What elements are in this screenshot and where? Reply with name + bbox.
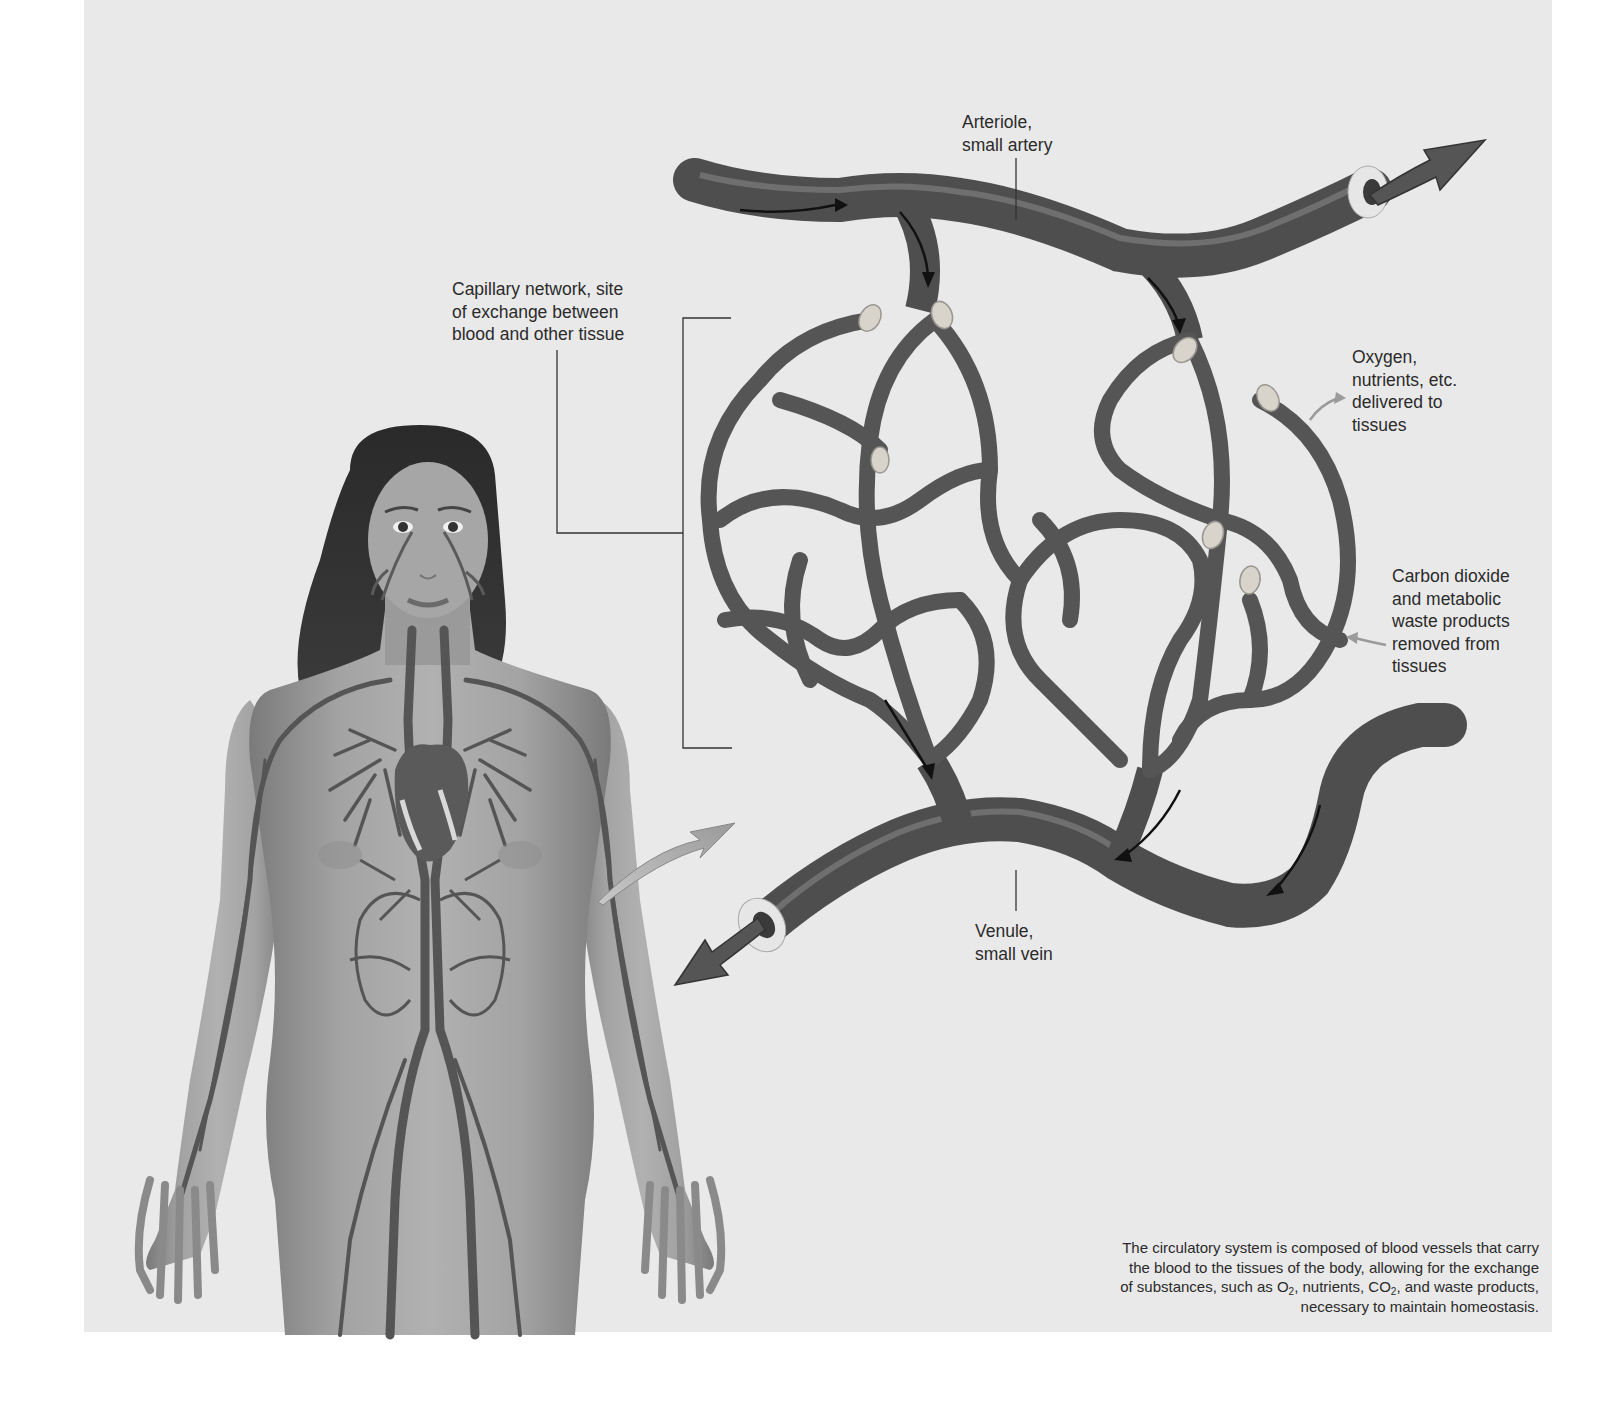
circulatory-illustration <box>0 0 1601 1413</box>
arteriole-vessel <box>695 166 1388 340</box>
capillary-network <box>709 320 1348 770</box>
co2-removal-label: Carbon dioxide and metabolic waste produ… <box>1392 565 1510 678</box>
arteriole-outflow-arrow <box>1370 140 1485 205</box>
oxygen-delivery-label: Oxygen, nutrients, etc. delivered to tis… <box>1352 346 1457 436</box>
venule-label: Venule, small vein <box>975 920 1053 965</box>
oxygen-pointer-arrow <box>1310 398 1338 420</box>
capillary-network-label: Capillary network, site of exchange betw… <box>452 278 624 346</box>
co2-pointer-arrow <box>1355 638 1386 645</box>
venule-outflow-arrow <box>675 918 765 985</box>
arteriole-label: Arteriole, small artery <box>962 111 1052 156</box>
figure-caption: The circulatory system is composed of bl… <box>1120 1238 1539 1316</box>
venule-vessel <box>729 725 1445 960</box>
blood-flow-direction-arrows <box>740 205 1320 890</box>
